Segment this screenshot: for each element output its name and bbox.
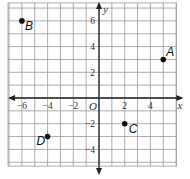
x-tick-label: 2 [122, 101, 127, 111]
coordinate-plane: −6−4−224642−2−4 x y O ABCD [0, 0, 190, 179]
y-axis-label: y [102, 3, 108, 15]
y-tick-label: 2 [90, 68, 95, 78]
point-C: C [122, 121, 138, 136]
point-dot-icon [122, 121, 128, 127]
y-tick-label: 4 [90, 42, 95, 52]
x-tick-label: −6 [17, 101, 27, 111]
grid-border [8, 3, 176, 166]
x-tick-label: 4 [148, 101, 153, 111]
x-tick-label: −2 [68, 101, 78, 111]
point-dot-icon [19, 18, 25, 24]
point-dot-icon [45, 134, 51, 140]
x-axis-label: x [176, 99, 182, 111]
point-dot-icon [160, 57, 166, 63]
origin-label: O [89, 100, 97, 112]
y-tick-label: −2 [85, 119, 95, 129]
y-tick-label: 6 [90, 16, 95, 26]
point-label: D [37, 134, 46, 148]
point-D: D [37, 134, 51, 148]
point-B: B [19, 18, 33, 33]
point-label: B [25, 19, 33, 33]
point-label: C [129, 122, 138, 136]
plotted-points: ABCD [19, 18, 174, 147]
y-tick-label: −4 [85, 145, 95, 155]
y-axis-arrow-down-icon [96, 168, 102, 175]
x-tick-label: −4 [43, 101, 53, 111]
point-label: A [165, 45, 174, 59]
grid-lines [8, 3, 176, 166]
